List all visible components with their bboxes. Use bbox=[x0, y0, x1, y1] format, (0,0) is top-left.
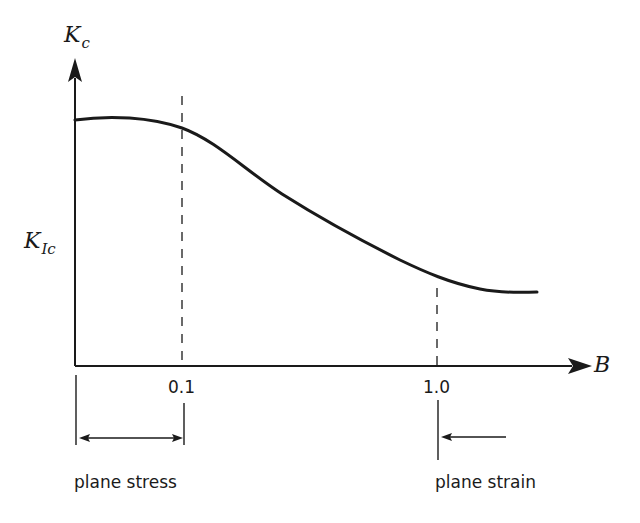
plane-stress-label: plane stress bbox=[74, 472, 177, 492]
tick-label-0.1: 0.1 bbox=[168, 377, 195, 397]
kic-subscript: Ic bbox=[41, 240, 55, 258]
tick-label-1.0: 1.0 bbox=[423, 377, 450, 397]
diagram-graphics bbox=[0, 0, 640, 523]
plane-strain-label: plane strain bbox=[435, 472, 536, 492]
x-axis-label: B bbox=[594, 352, 610, 377]
kic-symbol: K bbox=[24, 228, 40, 253]
y-axis-subscript: c bbox=[81, 34, 89, 52]
y-axis-symbol: K bbox=[64, 22, 80, 47]
toughness-curve bbox=[75, 117, 537, 292]
fracture-toughness-diagram: Kc KIc B 0.1 1.0 plane stress plane stra… bbox=[0, 0, 640, 523]
y-axis-label: Kc bbox=[64, 22, 90, 47]
kic-label: KIc bbox=[24, 228, 56, 253]
